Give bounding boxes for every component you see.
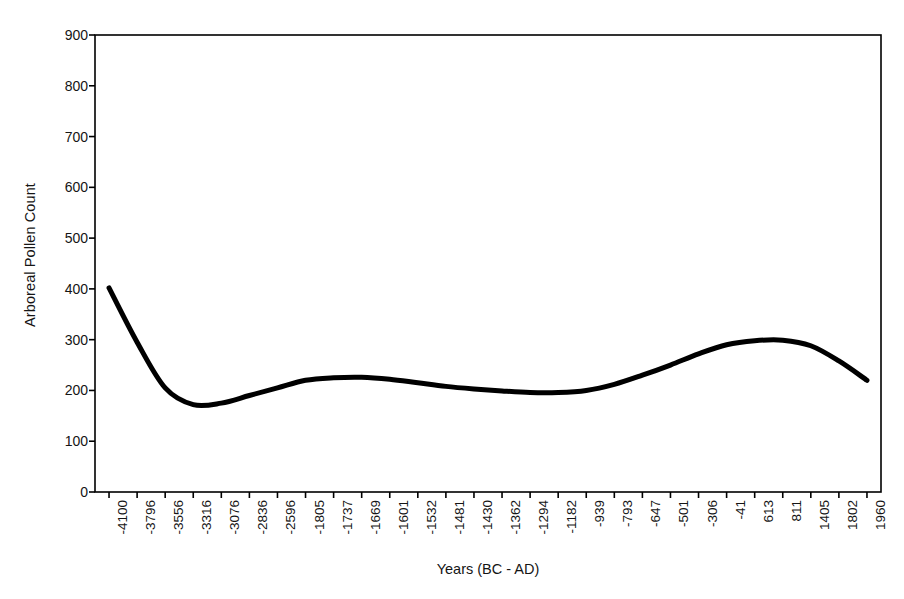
x-axis-tick-label: -1182 (564, 500, 579, 534)
x-axis-tick-label: -1532 (424, 500, 439, 535)
x-axis-tick-label: -1737 (340, 500, 355, 535)
x-axis-tick-label: -939 (592, 500, 607, 527)
x-axis-tick-label: -3076 (227, 500, 242, 535)
x-axis-tick-label: -3796 (143, 500, 158, 535)
x-axis-tick-label: -3316 (199, 500, 214, 535)
x-axis-tick-label: 1405 (817, 500, 832, 530)
x-axis-tick-label: 613 (761, 500, 776, 523)
x-axis-tick-label: -306 (705, 500, 720, 527)
x-axis-tick-label: -4100 (115, 500, 130, 535)
x-axis-tick-label: -1805 (312, 500, 327, 535)
x-axis-tick-label: -2596 (283, 500, 298, 535)
x-axis-tick-label: -1669 (368, 500, 383, 535)
x-axis-tick-label: -1294 (536, 500, 551, 535)
x-axis-tick-label: 811 (789, 500, 804, 522)
x-axis-tick-label: 1802 (845, 500, 860, 530)
x-axis-tick-label: -1601 (396, 500, 411, 535)
x-axis-tick-label: -2836 (255, 500, 270, 535)
x-axis-tick-label: -41 (733, 500, 748, 520)
x-axis-tick-label: -1430 (480, 500, 495, 535)
pollen-count-chart: Arboreal Pollen Count 010020030040050060… (0, 0, 904, 599)
x-axis-tick-labels: -4100-3796-3556-3316-3076-2836-2596-1805… (0, 0, 904, 599)
x-axis-tick-label: -1362 (508, 500, 523, 535)
x-axis-tick-label: 1960 (873, 500, 888, 530)
x-axis-tick-label: -501 (676, 500, 691, 527)
x-axis-tick-label: -647 (648, 500, 663, 527)
x-axis-tick-label: -3556 (171, 500, 186, 535)
x-axis-tick-label: -793 (620, 500, 635, 527)
x-axis-tick-label: -1481 (452, 500, 467, 535)
x-axis-title: Years (BC - AD) (95, 561, 881, 577)
